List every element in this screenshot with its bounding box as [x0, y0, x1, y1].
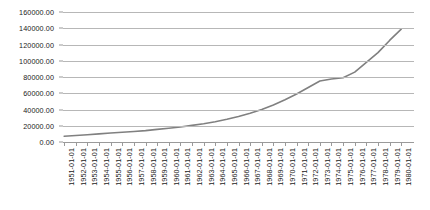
gridline — [63, 126, 414, 127]
x-tick-label: 1955-01-01 — [114, 148, 123, 186]
x-tick-label: 1956-01-01 — [125, 148, 134, 186]
x-tick-label: 1976-01-01 — [358, 148, 367, 186]
x-tick-label: 1957-01-01 — [137, 148, 146, 186]
x-tick-label: 1974-01-01 — [334, 148, 343, 186]
x-tick-mark — [273, 142, 274, 146]
y-tick-label: 40000.00 — [23, 105, 54, 114]
x-tick-label: 1971-01-01 — [300, 148, 309, 186]
x-tick-mark — [134, 142, 135, 146]
x-tick-label: 1952-01-01 — [79, 148, 88, 186]
x-tick-mark — [239, 142, 240, 146]
x-tick-mark — [355, 142, 356, 146]
x-tick-label: 1975-01-01 — [346, 148, 355, 186]
x-tick-label: 1958-01-01 — [149, 148, 158, 186]
x-tick-mark — [390, 142, 391, 146]
gridline — [63, 12, 414, 13]
y-axis: 0.0020000.0040000.0060000.0080000.001000… — [0, 0, 63, 154]
gridline — [63, 110, 414, 111]
gridline — [63, 77, 414, 78]
y-tick-label: 80000.00 — [23, 73, 54, 82]
gridline — [63, 28, 414, 29]
x-tick-mark — [285, 142, 286, 146]
x-tick-label: 1953-01-01 — [90, 148, 99, 186]
x-tick-label: 1967-01-01 — [253, 148, 262, 186]
x-tick-label: 1973-01-01 — [323, 148, 332, 186]
x-tick-mark — [204, 142, 205, 146]
y-tick-label: 100000.00 — [19, 56, 54, 65]
y-tick-label: 160000.00 — [19, 8, 54, 17]
y-tick-label: 60000.00 — [23, 89, 54, 98]
x-tick-label: 1963-01-01 — [207, 148, 216, 186]
x-tick-label: 1964-01-01 — [218, 148, 227, 186]
gridline — [63, 61, 414, 62]
y-tick-label: 120000.00 — [19, 40, 54, 49]
x-tick-label: 1951-01-01 — [67, 148, 76, 186]
gridline — [63, 45, 414, 46]
x-tick-label: 1954-01-01 — [102, 148, 111, 186]
x-tick-mark — [192, 142, 193, 146]
gridline — [63, 93, 414, 94]
x-tick-mark — [111, 142, 112, 146]
x-tick-label: 1961-01-01 — [183, 148, 192, 186]
x-tick-mark — [169, 142, 170, 146]
x-tick-label: 1969-01-01 — [276, 148, 285, 186]
x-tick-mark — [122, 142, 123, 146]
x-tick-mark — [320, 142, 321, 146]
x-tick-label: 1962-01-01 — [195, 148, 204, 186]
x-tick-mark — [76, 142, 77, 146]
x-tick-label: 1970-01-01 — [288, 148, 297, 186]
x-tick-label: 1968-01-01 — [265, 148, 274, 186]
x-tick-mark — [331, 142, 332, 146]
x-tick-mark — [366, 142, 367, 146]
x-tick-mark — [99, 142, 100, 146]
x-tick-mark — [180, 142, 181, 146]
x-tick-mark — [343, 142, 344, 146]
x-tick-label: 1965-01-01 — [230, 148, 239, 186]
line-chart: 0.0020000.0040000.0060000.0080000.001000… — [0, 0, 430, 210]
x-tick-label: 1978-01-01 — [381, 148, 390, 186]
x-tick-label: 1980-01-01 — [404, 148, 413, 186]
x-tick-mark — [146, 142, 147, 146]
x-tick-mark — [401, 142, 402, 146]
x-tick-label: 1966-01-01 — [242, 148, 251, 186]
x-tick-mark — [308, 142, 309, 146]
x-tick-mark — [215, 142, 216, 146]
x-tick-mark — [227, 142, 228, 146]
y-tick-label: 140000.00 — [19, 24, 54, 33]
x-tick-label: 1960-01-01 — [172, 148, 181, 186]
x-tick-label: 1972-01-01 — [311, 148, 320, 186]
x-tick-mark — [64, 142, 65, 146]
y-tick-label: 20000.00 — [23, 121, 54, 130]
x-tick-label: 1977-01-01 — [369, 148, 378, 186]
x-tick-mark — [87, 142, 88, 146]
x-tick-label: 1959-01-01 — [160, 148, 169, 186]
y-tick-label: 0.00 — [40, 138, 54, 147]
x-tick-mark — [157, 142, 158, 146]
x-tick-mark — [262, 142, 263, 146]
x-tick-label: 1979-01-01 — [393, 148, 402, 186]
plot-area — [63, 12, 414, 142]
x-tick-mark — [297, 142, 298, 146]
x-axis: 1951-01-011952-01-011953-01-011954-01-01… — [63, 142, 414, 210]
x-tick-mark — [378, 142, 379, 146]
x-tick-mark — [250, 142, 251, 146]
